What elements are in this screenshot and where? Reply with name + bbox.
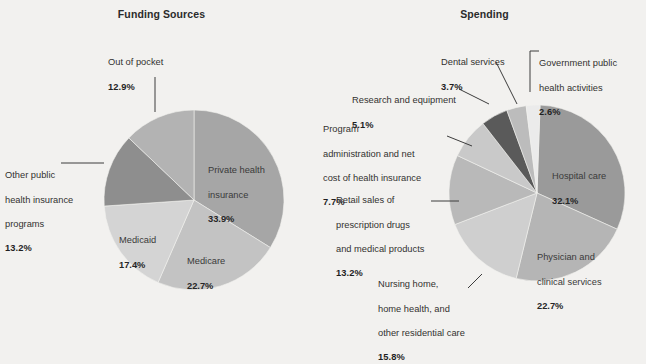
- label-physician-line1: Physician and: [537, 251, 602, 263]
- label-private-line1: Private health: [208, 164, 265, 176]
- label-out-of-pocket: Out of pocket 12.9%: [108, 44, 163, 105]
- label-retail-line3: and medical products: [336, 243, 424, 255]
- label-gov-public-line2: health activities: [539, 82, 617, 94]
- label-physician-clinical: Physician and clinical services 22.7%: [537, 239, 602, 324]
- spending-panel-title: Spending: [323, 8, 646, 20]
- label-other-public-line2: health insurance: [5, 194, 73, 206]
- label-other-public-pct: 13.2%: [5, 242, 73, 254]
- label-other-public: Other public health insurance programs 1…: [5, 157, 73, 267]
- label-nursing-pct: 15.8%: [378, 351, 465, 363]
- label-out-of-pocket-text: Out of pocket: [108, 56, 163, 68]
- label-nursing-line1: Nursing home,: [378, 278, 465, 290]
- label-program-admin-line2: administration and net: [323, 148, 421, 160]
- label-medicaid: Medicaid 17.4%: [119, 222, 156, 283]
- label-out-of-pocket-pct: 12.9%: [108, 81, 163, 93]
- label-nursing-line2: home health, and: [378, 303, 465, 315]
- label-nursing-home: Nursing home, home health, and other res…: [378, 266, 465, 364]
- label-medicare-line1: Medicare: [187, 255, 225, 267]
- label-other-public-line3: programs: [5, 218, 73, 230]
- funding-panel-title: Funding Sources: [0, 8, 323, 20]
- label-physician-pct: 22.7%: [537, 300, 602, 312]
- label-private-pct: 33.9%: [208, 213, 265, 225]
- label-nursing-line3: other residential care: [378, 327, 465, 339]
- label-program-admin-line1: Program: [323, 123, 421, 135]
- label-physician-line2: clinical services: [537, 276, 602, 288]
- label-gov-public-line1: Government public: [539, 57, 617, 69]
- label-research-line1: Research and equipment: [352, 94, 456, 106]
- label-dental-line1: Dental services: [441, 56, 505, 68]
- label-hospital-pct: 32.1%: [552, 195, 606, 207]
- label-retail-line1: Retail sales of: [336, 194, 424, 206]
- label-gov-public-health: Government public health activities 2.6%: [539, 45, 617, 130]
- label-retail-line2: prescription drugs: [336, 219, 424, 231]
- label-gov-public-pct: 2.6%: [539, 106, 617, 118]
- label-private-line2: insurance: [208, 189, 265, 201]
- label-hospital-line1: Hospital care: [552, 170, 606, 182]
- label-medicaid-line1: Medicaid: [119, 234, 156, 246]
- label-medicaid-pct: 17.4%: [119, 259, 156, 271]
- label-medicare: Medicare 22.7%: [187, 243, 225, 304]
- label-medicare-pct: 22.7%: [187, 280, 225, 292]
- label-private-health-insurance: Private health insurance 33.9%: [208, 152, 265, 237]
- label-hospital-care: Hospital care 32.1%: [552, 158, 606, 219]
- label-other-public-line1: Other public: [5, 169, 73, 181]
